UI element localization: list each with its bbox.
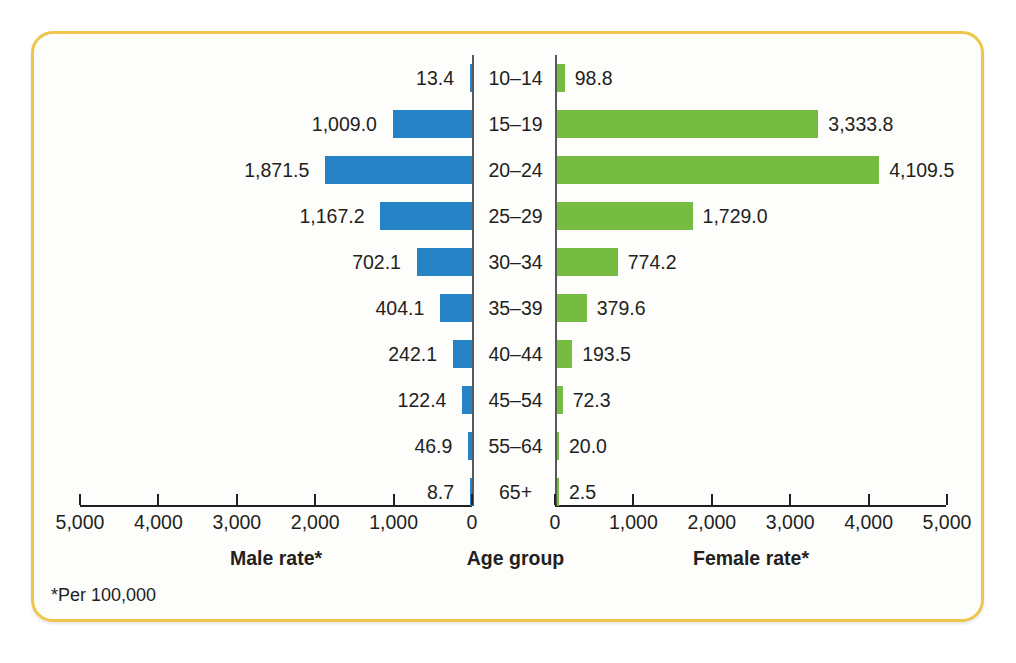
male-value-label: 13.4: [416, 64, 454, 92]
female-value-label: 98.8: [575, 64, 613, 92]
female-value-label: 72.3: [573, 386, 611, 414]
chart-row: 702.130–34774.2: [34, 239, 981, 285]
female-axis-tick-label: 0: [550, 511, 561, 534]
female-bar[interactable]: [557, 202, 693, 230]
female-axis-tick-label: 3,000: [766, 511, 815, 534]
male-axis-tick-label: 2,000: [291, 511, 340, 534]
population-pyramid-chart: 13.410–1498.81,009.015–193,333.81,871.52…: [34, 34, 981, 619]
male-bar[interactable]: [417, 248, 472, 276]
female-bar[interactable]: [557, 110, 818, 138]
female-value-label: 4,109.5: [889, 156, 954, 184]
male-axis-tick: [393, 494, 395, 505]
male-value-label: 404.1: [376, 294, 425, 322]
female-bar[interactable]: [557, 294, 587, 322]
male-value-label: 122.4: [398, 386, 447, 414]
chart-row: 46.955–6420.0: [34, 423, 981, 469]
age-group-label: 30–34: [474, 248, 557, 276]
male-axis-tick-label: 4,000: [134, 511, 183, 534]
female-bar[interactable]: [557, 64, 565, 92]
age-group-label: 20–24: [474, 156, 557, 184]
male-value-label: 1,167.2: [299, 202, 364, 230]
female-bar[interactable]: [557, 156, 879, 184]
male-bar[interactable]: [325, 156, 472, 184]
chart-row: 1,167.225–291,729.0: [34, 193, 981, 239]
female-value-label: 2.5: [569, 478, 596, 506]
female-axis-tick-label: 5,000: [923, 511, 972, 534]
male-bar[interactable]: [470, 64, 472, 92]
chart-row: 1,009.015–193,333.8: [34, 101, 981, 147]
figure-frame: 13.410–1498.81,009.015–193,333.81,871.52…: [31, 31, 984, 622]
female-axis-tick-label: 2,000: [687, 511, 736, 534]
male-axis-tick: [236, 494, 238, 505]
female-bar[interactable]: [557, 340, 572, 368]
male-value-label: 702.1: [352, 248, 401, 276]
male-value-label: 242.1: [388, 340, 437, 368]
age-group-label: 45–54: [474, 386, 557, 414]
female-axis-tick: [711, 494, 713, 505]
male-bar[interactable]: [380, 202, 472, 230]
footnote: *Per 100,000: [51, 585, 156, 606]
chart-row: 8.765+2.5: [34, 469, 981, 515]
male-axis-tick: [471, 494, 473, 505]
male-bar[interactable]: [462, 386, 472, 414]
female-bar[interactable]: [557, 386, 563, 414]
chart-row: 242.140–44193.5: [34, 331, 981, 377]
male-bar[interactable]: [453, 340, 472, 368]
female-value-label: 3,333.8: [828, 110, 893, 138]
male-axis-tick: [314, 494, 316, 505]
male-axis-tick-label: 3,000: [212, 511, 261, 534]
chart-row: 404.135–39379.6: [34, 285, 981, 331]
female-bar[interactable]: [557, 432, 559, 460]
male-axis-tick: [157, 494, 159, 505]
female-axis-tick-label: 1,000: [609, 511, 658, 534]
female-axis-tick: [632, 494, 634, 505]
female-axis-tick: [946, 494, 948, 505]
female-value-label: 20.0: [569, 432, 607, 460]
male-axis-title: Male rate*: [230, 547, 322, 570]
age-group-label: 40–44: [474, 340, 557, 368]
age-group-label: 65+: [474, 478, 557, 506]
chart-row: 122.445–5472.3: [34, 377, 981, 423]
age-group-label: 25–29: [474, 202, 557, 230]
male-bar[interactable]: [393, 110, 472, 138]
male-value-label: 1,009.0: [312, 110, 377, 138]
male-bar[interactable]: [468, 432, 472, 460]
female-axis-title: Female rate*: [693, 547, 809, 570]
female-axis-tick: [868, 494, 870, 505]
male-axis-tick-label: 5,000: [56, 511, 105, 534]
male-axis-tick: [79, 494, 81, 505]
female-value-label: 774.2: [628, 248, 677, 276]
male-axis-tick-label: 1,000: [369, 511, 418, 534]
age-group-label: 35–39: [474, 294, 557, 322]
center-axis-title: Age group: [467, 547, 565, 570]
male-axis-tick-label: 0: [467, 511, 478, 534]
age-group-label: 55–64: [474, 432, 557, 460]
chart-row: 1,871.520–244,109.5: [34, 147, 981, 193]
female-bar[interactable]: [557, 248, 618, 276]
age-group-label: 15–19: [474, 110, 557, 138]
age-group-label: 10–14: [474, 64, 557, 92]
male-bar[interactable]: [440, 294, 472, 322]
female-value-label: 379.6: [597, 294, 646, 322]
female-axis-tick-label: 4,000: [844, 511, 893, 534]
female-axis-tick: [789, 494, 791, 505]
female-axis-tick: [554, 494, 556, 505]
chart-row: 13.410–1498.8: [34, 55, 981, 101]
male-value-label: 8.7: [427, 478, 454, 506]
male-value-label: 46.9: [414, 432, 452, 460]
female-value-label: 193.5: [582, 340, 631, 368]
male-value-label: 1,871.5: [244, 156, 309, 184]
female-bar[interactable]: [557, 478, 559, 506]
female-value-label: 1,729.0: [703, 202, 768, 230]
